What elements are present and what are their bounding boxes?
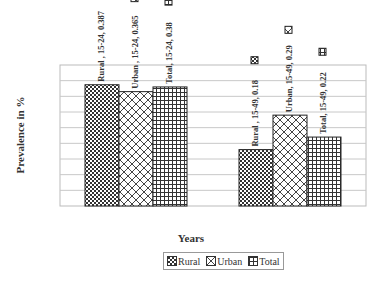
label-key-icon	[319, 48, 326, 55]
x-axis-label: Years	[0, 232, 382, 244]
label-key-icon	[165, 0, 172, 5]
data-label: Total, 15-24, 0.38	[164, 22, 174, 84]
legend-item-total[interactable]: Total	[248, 256, 279, 267]
legend-label: Urban	[217, 256, 242, 267]
bar-total-15-49	[307, 137, 341, 206]
rural-swatch-icon	[167, 256, 177, 266]
bar-rural-15-24	[85, 85, 119, 206]
bar-urban-15-49	[273, 115, 307, 206]
total-swatch-icon	[248, 256, 258, 266]
data-label: Rural , 15-24, 0.387	[96, 10, 106, 82]
label-key-icon	[251, 57, 258, 64]
data-label: Total, 15-49, 0.22	[318, 72, 328, 134]
legend-label: Total	[259, 256, 279, 267]
legend-item-urban[interactable]: Urban	[206, 256, 242, 267]
y-axis-label-text: Prevalence in %	[14, 97, 26, 174]
data-label: Urban, 15-49, 0.29	[284, 45, 294, 112]
legend-label: Rural	[178, 256, 200, 267]
data-label: Urban , 15-24, 0.365	[130, 15, 140, 88]
label-key-icon	[285, 26, 292, 33]
legend-item-rural[interactable]: Rural	[167, 256, 200, 267]
label-key-icon	[131, 0, 138, 2]
bar-total-15-24	[153, 87, 187, 206]
bar-urban-15-24	[119, 92, 153, 206]
urban-swatch-icon	[206, 256, 216, 266]
legend: Rural Urban Total	[163, 252, 284, 270]
data-label: Rural , 15-49, 0.18	[250, 80, 260, 147]
y-axis-label: Prevalence in %	[8, 70, 32, 200]
bar-rural-15-49	[239, 150, 273, 206]
